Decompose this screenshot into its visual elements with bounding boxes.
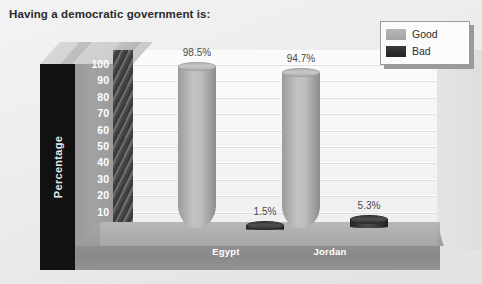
bar-value-label: 98.5% bbox=[168, 47, 226, 58]
legend-item-bad[interactable]: Bad bbox=[386, 43, 464, 60]
y-axis-title-panel: Percentage bbox=[40, 64, 75, 270]
cylinder-top-ellipse bbox=[178, 62, 216, 71]
y-axis-tick-label: 30 bbox=[97, 174, 109, 185]
y-axis-tick-label: 10 bbox=[97, 207, 109, 218]
bar-egypt-good[interactable] bbox=[178, 62, 216, 233]
bar-jordan-good[interactable] bbox=[282, 68, 320, 232]
y-axis-tick-label: 60 bbox=[97, 125, 109, 136]
cylinder-body bbox=[178, 66, 216, 228]
cylinder-top-ellipse bbox=[350, 215, 388, 224]
bar-value-label: 94.7% bbox=[272, 53, 330, 64]
y-axis-tick-label: 40 bbox=[97, 157, 109, 168]
bar-egypt-bad[interactable] bbox=[246, 221, 284, 234]
chart-title: Having a democratic government is: bbox=[9, 8, 211, 20]
category-label-jordan: Jordan bbox=[277, 246, 383, 257]
hatch-wall bbox=[113, 50, 133, 242]
cylinder-top-ellipse bbox=[246, 221, 284, 230]
y-axis-tick-label: 90 bbox=[97, 75, 109, 86]
cylinder-body bbox=[282, 73, 320, 228]
y-axis-title: Percentage bbox=[52, 136, 64, 198]
y-axis-tick-label: 70 bbox=[97, 108, 109, 119]
chart-screenshot: Having a democratic government is: Perce… bbox=[0, 0, 482, 284]
y-axis-tick-label: 20 bbox=[97, 190, 109, 201]
legend-swatch-good-icon bbox=[386, 29, 406, 40]
category-label-egypt: Egypt bbox=[173, 246, 279, 257]
plot-right-margin bbox=[437, 50, 482, 250]
y-axis-tick-label: 80 bbox=[97, 92, 109, 103]
legend-item-good[interactable]: Good bbox=[386, 26, 464, 43]
legend-label-good: Good bbox=[412, 29, 438, 40]
y-axis-tick-label: 50 bbox=[97, 141, 109, 152]
legend: Good Bad bbox=[380, 21, 470, 65]
bar-value-label: 5.3% bbox=[340, 200, 398, 211]
legend-label-bad: Bad bbox=[412, 46, 431, 57]
legend-swatch-bad-icon bbox=[386, 46, 406, 57]
bar-jordan-bad[interactable] bbox=[350, 215, 388, 233]
y-axis-tick-label: 100 bbox=[91, 59, 109, 70]
